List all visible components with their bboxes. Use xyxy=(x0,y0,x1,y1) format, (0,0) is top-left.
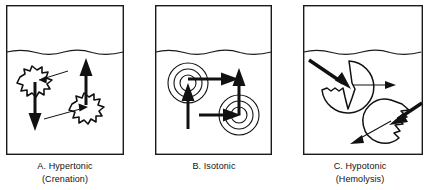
caption-hypotonic-line-2: (Hemolysis) xyxy=(296,173,424,186)
panel-isotonic xyxy=(155,5,272,155)
caption-hypertonic-line-1: A. Hypertonic xyxy=(0,160,130,173)
panel-hypotonic-drawing xyxy=(303,5,423,155)
panel-isotonic-drawing xyxy=(155,5,272,155)
caption-isotonic: B. Isotonic xyxy=(150,160,278,173)
panel-hypertonic-drawing xyxy=(6,5,124,155)
caption-hypotonic-line-1: C. Hypotonic xyxy=(296,160,424,173)
panel-hypertonic xyxy=(6,5,124,155)
caption-hypertonic: A. Hypertonic (Crenation) xyxy=(0,160,130,186)
caption-hypertonic-line-2: (Crenation) xyxy=(0,173,130,186)
panel-hypotonic xyxy=(303,5,423,155)
caption-hypotonic: C. Hypotonic (Hemolysis) xyxy=(296,160,424,186)
caption-isotonic-line-1: B. Isotonic xyxy=(150,160,278,173)
